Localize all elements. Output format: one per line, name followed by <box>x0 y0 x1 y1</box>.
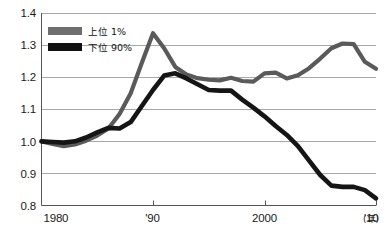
x-tick-label-2000: 2000 <box>252 212 277 224</box>
y-tick-label-1.0: 1.0 <box>21 136 36 148</box>
legend-swatch-bottom90 <box>48 43 82 51</box>
y-tick-label-0.9: 0.9 <box>21 168 36 180</box>
y-tick-label-1.2: 1.2 <box>21 71 36 83</box>
legend-label-bottom90: 下位 90% <box>88 42 132 53</box>
y-tick-label-1.1: 1.1 <box>21 103 36 115</box>
x-axis-unit-label: (年) <box>363 213 379 224</box>
y-tick-label-1.4: 1.4 <box>21 7 37 19</box>
legend-label-top1: 上位 1% <box>88 26 126 37</box>
x-tick-label-90: '90 <box>145 212 159 224</box>
chart-container: 0.80.91.01.11.21.31.4 1980'902000'10 上位 … <box>0 0 391 227</box>
y-tick-label-1.3: 1.3 <box>21 39 36 51</box>
y-tick-label-0.8: 0.8 <box>21 200 36 212</box>
legend-swatch-top1 <box>48 27 82 35</box>
income-index-line-chart: 0.80.91.01.11.21.31.4 1980'902000'10 上位 … <box>0 0 391 227</box>
x-tick-label-1980: 1980 <box>44 212 69 224</box>
